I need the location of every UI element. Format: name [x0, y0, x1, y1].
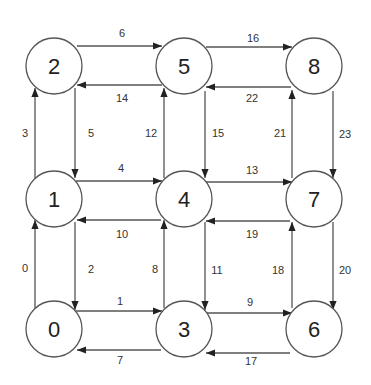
edge-label: 15	[212, 127, 224, 139]
edge-label: 2	[88, 263, 94, 275]
node-6: 6	[286, 301, 342, 357]
node-0: 0	[26, 301, 82, 357]
nodes-group: 012345678	[26, 38, 342, 357]
graph-diagram: 01234567891011121314151617181920212223 0…	[0, 0, 371, 385]
node-5: 5	[156, 38, 212, 94]
edge-label: 19	[246, 228, 258, 240]
node-8: 8	[286, 38, 342, 94]
node-3: 3	[156, 301, 212, 357]
edge-label: 20	[339, 264, 351, 276]
edge-label: 11	[211, 264, 222, 276]
edge-label: 13	[246, 164, 258, 176]
edge-label: 0	[22, 262, 28, 274]
edge-label: 18	[272, 264, 284, 276]
node-7: 7	[286, 171, 342, 227]
node-label: 1	[48, 187, 60, 212]
edge-label: 17	[245, 355, 257, 367]
edge-label: 8	[152, 263, 158, 275]
edge-label: 9	[247, 296, 253, 308]
node-label: 5	[178, 54, 190, 79]
node-label: 6	[308, 317, 320, 342]
edge-label: 14	[116, 92, 128, 104]
node-label: 2	[48, 54, 60, 79]
node-label: 8	[308, 54, 320, 79]
edge-label: 1	[117, 295, 123, 307]
edge-label: 12	[145, 127, 157, 139]
node-label: 4	[178, 187, 190, 212]
node-label: 0	[48, 317, 60, 342]
edge-label: 4	[118, 162, 124, 174]
edge-label: 21	[274, 127, 286, 139]
edge-label: 10	[116, 228, 128, 240]
edge-label: 7	[117, 354, 123, 366]
edge-label: 3	[22, 127, 28, 139]
edge-label: 22	[246, 92, 258, 104]
graph-svg: 01234567891011121314151617181920212223 0…	[0, 0, 371, 385]
node-1: 1	[26, 171, 82, 227]
node-label: 3	[178, 317, 190, 342]
node-4: 4	[156, 171, 212, 227]
edge-label: 6	[119, 27, 125, 39]
edge-label: 23	[339, 128, 351, 140]
node-2: 2	[26, 38, 82, 94]
edge-label: 5	[88, 127, 94, 139]
node-label: 7	[308, 187, 320, 212]
edge-label: 16	[247, 32, 259, 44]
